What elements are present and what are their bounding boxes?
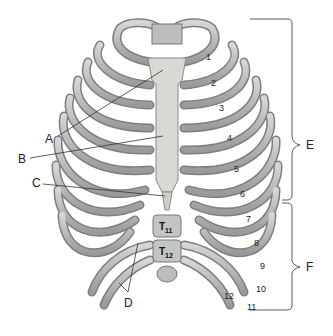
rib-number-4: 4 [227, 134, 232, 143]
rib-number-1: 1 [206, 53, 211, 62]
vertebra-label-t11: T11 [159, 222, 173, 234]
rib-number-12: 12 [224, 292, 234, 301]
label-d: D [124, 297, 133, 309]
rib-cage-diagram: A B C D E F 1 2 3 4 5 6 7 8 9 10 11 12 T… [0, 0, 333, 336]
vertebra-label-t12: T12 [159, 247, 173, 259]
rib-number-10: 10 [256, 285, 266, 294]
rib-number-5: 5 [234, 165, 239, 174]
rib-number-3: 3 [219, 104, 224, 113]
label-f: F [306, 261, 313, 273]
rib-number-6: 6 [240, 190, 245, 199]
label-e: E [306, 139, 314, 151]
rib-number-11: 11 [247, 303, 256, 312]
label-a: A [45, 133, 53, 145]
rib-number-8: 8 [254, 239, 259, 248]
rib-number-7: 7 [246, 215, 251, 224]
vertebra-number: 12 [165, 252, 173, 259]
vertebra-number: 11 [165, 227, 172, 234]
rib-number-9: 9 [260, 262, 265, 271]
rib-number-2: 2 [211, 79, 216, 88]
label-c: C [32, 177, 41, 189]
rib-cage-illustration [0, 0, 333, 336]
label-b: B [18, 153, 26, 165]
